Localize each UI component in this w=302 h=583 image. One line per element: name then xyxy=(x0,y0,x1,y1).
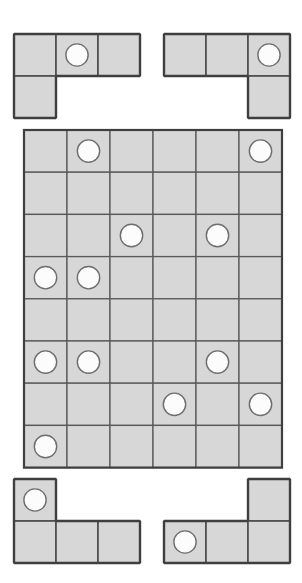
grid-cell-r5-c2[interactable] xyxy=(67,299,110,341)
peg-icon-r3-c3[interactable] xyxy=(120,224,142,246)
piece-bottom-right[interactable] xyxy=(162,477,292,565)
grid-cell-r6-c6[interactable] xyxy=(239,341,282,383)
piece-top-left[interactable] xyxy=(12,32,142,120)
grid-cell-r8-c2[interactable] xyxy=(67,425,110,467)
piece-bottom-left-peg-icon[interactable] xyxy=(24,489,46,511)
grid-cell-r8-c3[interactable] xyxy=(110,425,153,467)
grid-cell-r6-c3[interactable] xyxy=(110,341,153,383)
peg-icon-r6-c5[interactable] xyxy=(206,351,228,373)
peg-icon-r6-c1[interactable] xyxy=(34,351,56,373)
peg-icon-r7-c4[interactable] xyxy=(163,393,185,415)
piece-bottom-left-cell-r1-c0[interactable] xyxy=(14,521,56,563)
piece-top-right-peg-icon[interactable] xyxy=(258,44,280,66)
grid-cell-r3-c4[interactable] xyxy=(153,214,196,256)
piece-top-left-cell-r1-c0[interactable] xyxy=(14,76,56,118)
main-grid[interactable] xyxy=(22,128,284,470)
peg-icon-r6-c2[interactable] xyxy=(77,351,99,373)
grid-cell-r4-c3[interactable] xyxy=(110,257,153,299)
piece-bottom-right-cell-r1-c1[interactable] xyxy=(206,521,248,563)
piece-bottom-right-cell-r1-c2[interactable] xyxy=(248,521,290,563)
piece-bottom-left-cell-r1-c2[interactable] xyxy=(98,521,140,563)
peg-icon-r4-c1[interactable] xyxy=(34,267,56,289)
piece-bottom-right-peg-icon[interactable] xyxy=(174,531,196,553)
piece-top-left-cell-r0-c0[interactable] xyxy=(14,34,56,76)
grid-cell-r6-c4[interactable] xyxy=(153,341,196,383)
grid-cell-r8-c4[interactable] xyxy=(153,425,196,467)
grid-cell-r4-c5[interactable] xyxy=(196,257,239,299)
grid-cell-r2-c3[interactable] xyxy=(110,172,153,214)
grid-cell-r7-c5[interactable] xyxy=(196,383,239,425)
grid-cell-r7-c2[interactable] xyxy=(67,383,110,425)
piece-top-right[interactable] xyxy=(162,32,292,120)
piece-top-right-cell-r0-c1[interactable] xyxy=(206,34,248,76)
grid-cell-r3-c6[interactable] xyxy=(239,214,282,256)
piece-top-right-cell-r0-c0[interactable] xyxy=(164,34,206,76)
peg-icon-r7-c6[interactable] xyxy=(249,393,271,415)
grid-cell-r3-c1[interactable] xyxy=(24,214,67,256)
piece-top-left-cell-r0-c2[interactable] xyxy=(98,34,140,76)
grid-cell-r7-c1[interactable] xyxy=(24,383,67,425)
grid-cell-r5-c4[interactable] xyxy=(153,299,196,341)
grid-cell-r3-c2[interactable] xyxy=(67,214,110,256)
grid-cell-r1-c5[interactable] xyxy=(196,130,239,172)
piece-top-left-peg-icon[interactable] xyxy=(66,44,88,66)
grid-cell-r7-c3[interactable] xyxy=(110,383,153,425)
grid-cell-r2-c4[interactable] xyxy=(153,172,196,214)
peg-icon-r3-c5[interactable] xyxy=(206,224,228,246)
peg-icon-r8-c1[interactable] xyxy=(34,435,56,457)
grid-cell-r2-c1[interactable] xyxy=(24,172,67,214)
grid-cell-r1-c1[interactable] xyxy=(24,130,67,172)
peg-icon-r1-c6[interactable] xyxy=(249,140,271,162)
grid-cell-r8-c5[interactable] xyxy=(196,425,239,467)
piece-top-right-cell-r1-c2[interactable] xyxy=(248,76,290,118)
piece-bottom-left[interactable] xyxy=(12,477,142,565)
peg-icon-r1-c2[interactable] xyxy=(77,140,99,162)
piece-bottom-right-cell-r0-c2[interactable] xyxy=(248,479,290,521)
grid-cell-r5-c3[interactable] xyxy=(110,299,153,341)
grid-cell-r1-c4[interactable] xyxy=(153,130,196,172)
peg-icon-r4-c2[interactable] xyxy=(77,267,99,289)
grid-cell-r5-c5[interactable] xyxy=(196,299,239,341)
grid-cell-r2-c6[interactable] xyxy=(239,172,282,214)
grid-cell-r2-c2[interactable] xyxy=(67,172,110,214)
grid-cell-r5-c6[interactable] xyxy=(239,299,282,341)
grid-cell-r5-c1[interactable] xyxy=(24,299,67,341)
grid-cell-r4-c4[interactable] xyxy=(153,257,196,299)
grid-cell-r4-c6[interactable] xyxy=(239,257,282,299)
grid-cell-r1-c3[interactable] xyxy=(110,130,153,172)
grid-cell-r8-c6[interactable] xyxy=(239,425,282,467)
puzzle-board xyxy=(0,0,302,583)
grid-cell-r2-c5[interactable] xyxy=(196,172,239,214)
piece-bottom-left-cell-r1-c1[interactable] xyxy=(56,521,98,563)
